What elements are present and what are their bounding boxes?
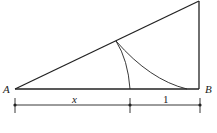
golden-ratio-construction-diagram: A B x 1 (0, 0, 217, 133)
dimension-dot-b (198, 103, 201, 106)
label-point-a: A (2, 83, 10, 95)
label-segment-x: x (71, 93, 77, 105)
label-point-b: B (205, 83, 212, 95)
label-segment-one: 1 (163, 93, 169, 105)
dimension-dot-mid (128, 103, 131, 106)
hypotenuse (15, 1, 199, 89)
dimension-dot-a (13, 103, 16, 106)
